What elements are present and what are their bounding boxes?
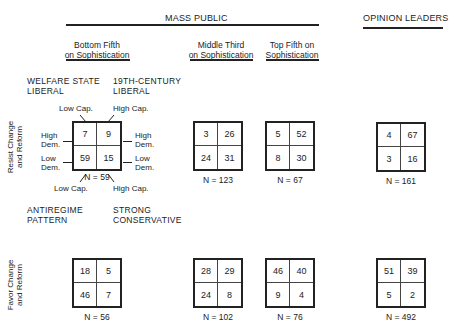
table-favor-bottom-fifth: 18 5 46 7 xyxy=(72,258,122,308)
n-count: N = 123 xyxy=(188,175,248,185)
cell-19th-century-liberal: 26 xyxy=(218,123,241,146)
mass-public-header: MASS PUBLIC xyxy=(165,13,228,23)
table-resist-opinion-leaders: 4 67 3 16 xyxy=(376,122,426,172)
cell-19th-century-liberal: 39 xyxy=(401,260,424,283)
row-label-line: and Reform xyxy=(15,255,24,315)
label-line: CONSERVATIVE xyxy=(113,215,182,225)
label-19th-century-liberal: 19TH-CENTURY LIBERAL xyxy=(113,76,181,96)
table-resist-bottom-fifth: 7 9 59 15 xyxy=(72,121,122,171)
label-line: WELFARE STATE xyxy=(27,76,100,86)
label-line: Low xyxy=(135,154,154,163)
cell-welfare-liberal: 28 xyxy=(195,260,218,283)
label-line: 19TH-CENTURY xyxy=(113,76,181,86)
cell-19th-century-liberal: 5 xyxy=(97,260,120,283)
label-line: Dem. xyxy=(41,140,60,149)
group-header-middle-third: Middle Third on Sophistication xyxy=(186,40,256,60)
group-header-line: Top Fifth on xyxy=(262,40,322,50)
table-favor-top-fifth: 46 40 9 4 xyxy=(265,258,315,308)
cell-antiregime: 24 xyxy=(195,283,218,306)
opinion-leaders-rule xyxy=(363,27,443,29)
mass-public-rule xyxy=(66,24,319,26)
cell-antiregime: 5 xyxy=(378,283,401,306)
cell-strong-conservative: 4 xyxy=(290,283,313,306)
table-resist-top-fifth: 5 52 8 30 xyxy=(265,121,315,171)
table-resist-middle-third: 3 26 24 31 xyxy=(193,121,243,171)
cell-strong-conservative: 2 xyxy=(401,283,424,306)
label-low-dem-left: Low Dem. xyxy=(41,154,60,172)
label-line: High xyxy=(135,131,154,140)
cell-19th-century-liberal: 52 xyxy=(290,123,313,146)
tick-high-dem-left xyxy=(63,141,72,142)
cell-19th-century-liberal: 29 xyxy=(218,260,241,283)
label-high-dem-right: High Dem. xyxy=(135,131,154,149)
label-line: ANTIREGIME xyxy=(27,205,83,215)
label-line: STRONG xyxy=(113,205,182,215)
label-line: Dem. xyxy=(41,163,60,172)
group-rule-middle-third xyxy=(190,59,253,61)
cell-welfare-liberal: 18 xyxy=(74,260,97,283)
cell-strong-conservative: 15 xyxy=(97,146,120,169)
table-favor-middle-third: 28 29 24 8 xyxy=(193,258,243,308)
cell-strong-conservative: 8 xyxy=(218,283,241,306)
row-label-resist-change: Resist Change and Reform xyxy=(6,117,24,177)
group-header-line: Middle Third xyxy=(186,40,256,50)
cell-strong-conservative: 7 xyxy=(97,283,120,306)
cell-strong-conservative: 30 xyxy=(290,146,313,169)
label-antiregime-pattern: ANTIREGIME PATTERN xyxy=(27,205,83,225)
cell-19th-century-liberal: 40 xyxy=(290,260,313,283)
cell-antiregime: 3 xyxy=(378,147,401,170)
label-line: LIBERAL xyxy=(113,86,181,96)
cell-antiregime: 46 xyxy=(74,283,97,306)
label-line: Dem. xyxy=(135,163,154,172)
tick-low-dem-left xyxy=(63,162,72,163)
cell-antiregime: 59 xyxy=(74,146,97,169)
n-count: N = 102 xyxy=(188,312,248,322)
cell-welfare-liberal: 3 xyxy=(195,123,218,146)
cell-welfare-liberal: 51 xyxy=(378,260,401,283)
tick-low-dem-right xyxy=(123,162,132,163)
label-line: PATTERN xyxy=(27,215,83,225)
table-favor-opinion-leaders: 51 39 5 2 xyxy=(376,258,426,308)
row-label-line: and Reform xyxy=(15,117,24,177)
label-high-dem-left: High Dem. xyxy=(41,131,60,149)
tick-high-dem-right xyxy=(123,141,132,142)
cell-welfare-liberal: 4 xyxy=(378,124,401,147)
row-label-line: Resist Change xyxy=(6,117,15,177)
n-count: N = 56 xyxy=(67,312,127,322)
n-count: N = 59 xyxy=(67,172,127,182)
row-label-line: Favor Change xyxy=(6,255,15,315)
cell-welfare-liberal: 5 xyxy=(267,123,290,146)
cell-welfare-liberal: 46 xyxy=(267,260,290,283)
group-rule-bottom-fifth xyxy=(66,59,130,61)
n-count: N = 161 xyxy=(371,176,431,186)
cell-19th-century-liberal: 9 xyxy=(97,123,120,146)
n-count: N = 76 xyxy=(260,312,320,322)
cell-antiregime: 24 xyxy=(195,146,218,169)
label-line: High xyxy=(41,131,60,140)
cell-19th-century-liberal: 67 xyxy=(401,124,424,147)
group-rule-top-fifth xyxy=(266,59,319,61)
group-header-bottom-fifth: Bottom Fifth on Sophistication xyxy=(62,40,132,60)
cell-strong-conservative: 31 xyxy=(218,146,241,169)
group-header-top-fifth: Top Fifth on Sophistication xyxy=(262,40,322,60)
group-header-line: Bottom Fifth xyxy=(62,40,132,50)
label-line: Low xyxy=(41,154,60,163)
n-count: N = 492 xyxy=(371,312,431,322)
label-low-dem-right: Low Dem. xyxy=(135,154,154,172)
label-low-cap-bottom: Low Cap. xyxy=(54,184,88,193)
label-line: Dem. xyxy=(135,140,154,149)
cell-welfare-liberal: 7 xyxy=(74,123,97,146)
label-strong-conservative: STRONG CONSERVATIVE xyxy=(113,205,182,225)
n-count: N = 67 xyxy=(260,175,320,185)
opinion-leaders-header: OPINION LEADERS xyxy=(363,13,449,23)
label-welfare-state-liberal: WELFARE STATE LIBERAL xyxy=(27,76,100,96)
cell-strong-conservative: 16 xyxy=(401,147,424,170)
row-label-favor-change: Favor Change and Reform xyxy=(6,255,24,315)
cell-antiregime: 9 xyxy=(267,283,290,306)
cell-antiregime: 8 xyxy=(267,146,290,169)
label-high-cap-bottom: High Cap. xyxy=(113,184,149,193)
label-line: LIBERAL xyxy=(27,86,100,96)
